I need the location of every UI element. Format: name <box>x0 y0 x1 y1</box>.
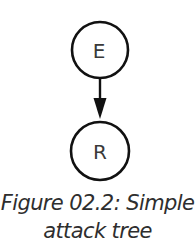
node-r-label: R <box>93 140 107 164</box>
caption-line-2: attack tree <box>0 217 195 245</box>
node-e: E <box>72 22 128 78</box>
attack-tree-diagram: E R <box>0 0 195 190</box>
edge-e-to-r <box>94 78 107 119</box>
figure-caption: Figure 02.2: Simple attack tree <box>0 189 195 245</box>
node-e-label: E <box>93 39 106 63</box>
caption-line-1: Figure 02.2: Simple <box>0 189 195 217</box>
arrowhead-icon <box>94 98 107 119</box>
node-r: R <box>71 122 129 180</box>
